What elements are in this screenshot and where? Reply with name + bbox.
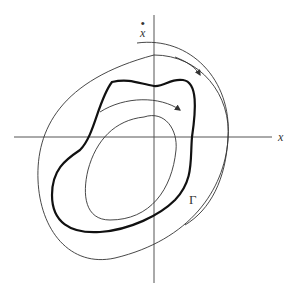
top-arc-trajectory	[137, 42, 228, 137]
inner-trajectory	[85, 116, 176, 220]
limit-cycle	[52, 80, 195, 233]
x-axis-label: x	[277, 130, 284, 144]
outer-arrow	[175, 57, 200, 75]
outer-trajectory	[38, 55, 228, 260]
limit-cycle-label: Γ	[189, 192, 197, 207]
inner-arrow	[100, 100, 180, 112]
y-axis-label-dot: •	[141, 16, 146, 31]
phase-portrait: x • x Γ	[0, 0, 294, 300]
